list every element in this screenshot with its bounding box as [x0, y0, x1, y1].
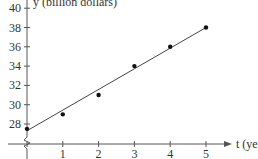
data-point — [204, 25, 208, 29]
chart: 28303234363840 12345 y (billion dollars)… — [0, 0, 258, 159]
y-axis-title: y (billion dollars) — [33, 0, 117, 9]
y-tick-label: 32 — [9, 78, 21, 92]
x-tick-label: 4 — [167, 147, 173, 159]
y-tick-label: 40 — [9, 1, 21, 15]
data-point — [25, 127, 29, 131]
x-axis-arrow-icon — [224, 141, 232, 147]
y-tick-label: 34 — [9, 59, 21, 73]
x-tick-label: 3 — [131, 147, 137, 159]
data-point — [96, 93, 100, 97]
x-axis-title: t (year) — [236, 137, 258, 151]
y-tick-label: 36 — [9, 40, 21, 54]
y-tick-label: 30 — [9, 98, 21, 112]
x-tick-label: 1 — [60, 147, 66, 159]
x-tick-label: 2 — [96, 147, 102, 159]
data-point — [132, 64, 136, 68]
y-tick-label: 28 — [9, 117, 21, 131]
y-tick-label: 38 — [9, 21, 21, 35]
data-point — [61, 112, 65, 116]
data-point — [168, 45, 172, 49]
x-tick-label: 5 — [203, 147, 209, 159]
trend-line — [27, 28, 206, 131]
data-points — [25, 25, 208, 131]
